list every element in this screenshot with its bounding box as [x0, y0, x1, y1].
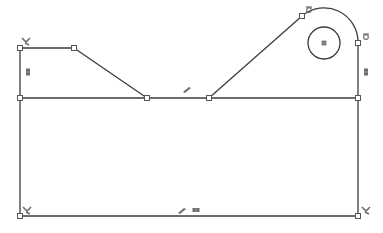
parallel-relation-icon[interactable]: [183, 87, 191, 93]
sketch-arc[interactable]: [302, 8, 358, 43]
sketch-point[interactable]: [356, 41, 361, 46]
sketch-points: [18, 14, 361, 219]
sketch-point[interactable]: [207, 96, 212, 101]
sketch-arcs: [302, 8, 358, 59]
sketch-point[interactable]: [300, 14, 305, 19]
sketch-line[interactable]: [74, 48, 147, 98]
sketch-point[interactable]: [18, 46, 23, 51]
sketch-point[interactable]: [18, 96, 23, 101]
sketch-point[interactable]: [18, 214, 23, 219]
sketch-lines: [20, 16, 358, 216]
sketch-canvas[interactable]: [0, 0, 383, 233]
parallel-relation-icon[interactable]: [178, 208, 186, 214]
vertical-relation-icon[interactable]: [364, 69, 368, 76]
sketch-point[interactable]: [356, 96, 361, 101]
vertical-relation-icon[interactable]: [26, 69, 30, 76]
sketch-point[interactable]: [356, 214, 361, 219]
sketch-line[interactable]: [209, 16, 302, 98]
circle-center-point[interactable]: [322, 41, 326, 45]
sketch-point[interactable]: [145, 96, 150, 101]
relation-glyphs: [22, 7, 370, 214]
coincident-relation-icon[interactable]: [22, 38, 30, 45]
tangent-relation-icon[interactable]: [363, 34, 369, 39]
horizontal-relation-icon[interactable]: [193, 208, 200, 212]
sketch-point[interactable]: [72, 46, 77, 51]
coincident-relation-icon[interactable]: [23, 207, 31, 214]
coincident-relation-icon[interactable]: [362, 207, 370, 214]
